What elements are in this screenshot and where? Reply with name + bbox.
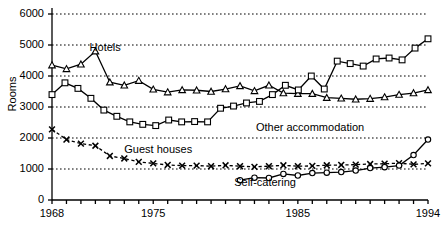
y-tick-label: 3000 xyxy=(4,100,44,112)
y-tick-label: 5000 xyxy=(4,38,44,50)
y-tick-label: 0 xyxy=(4,193,44,205)
data-point-x xyxy=(280,162,286,168)
data-point-square xyxy=(412,45,418,51)
data-point-square xyxy=(334,58,340,64)
x-tick-label: 1968 xyxy=(30,207,74,219)
data-point-x xyxy=(223,162,229,168)
data-point-circle xyxy=(367,165,372,170)
data-point-x xyxy=(425,161,431,167)
data-point-triangle xyxy=(266,82,273,88)
data-point-circle xyxy=(411,152,416,157)
data-point-square xyxy=(153,123,159,129)
data-point-square xyxy=(192,119,198,125)
data-point-square xyxy=(127,119,133,125)
series-guest-houses xyxy=(49,126,431,169)
data-point-square xyxy=(257,99,263,105)
series-label-other-accommodation: Other accommodation xyxy=(256,121,364,133)
data-point-square xyxy=(49,92,55,98)
data-point-square xyxy=(88,95,94,101)
data-point-x xyxy=(338,162,344,168)
data-point-square xyxy=(360,63,366,69)
data-point-square xyxy=(140,121,146,127)
data-point-square xyxy=(75,86,81,92)
data-point-square xyxy=(179,119,185,125)
data-point-square xyxy=(101,107,107,113)
data-point-square xyxy=(231,103,237,109)
data-point-x xyxy=(92,143,98,149)
data-point-square xyxy=(218,105,224,111)
data-point-square xyxy=(282,82,288,88)
data-point-triangle xyxy=(135,77,142,83)
data-point-circle xyxy=(339,169,344,174)
data-point-square xyxy=(373,56,379,62)
data-point-x xyxy=(136,159,142,165)
series-label-guest-houses: Guest houses xyxy=(124,143,192,155)
data-point-triangle xyxy=(107,79,114,85)
y-tick-label: 4000 xyxy=(4,69,44,81)
y-tick-label: 2000 xyxy=(4,131,44,143)
data-point-circle xyxy=(425,137,430,142)
data-point-square xyxy=(205,119,211,125)
x-tick-label: 1985 xyxy=(276,207,320,219)
data-point-x xyxy=(194,163,200,169)
data-point-circle xyxy=(310,170,315,175)
data-point-square xyxy=(347,61,353,67)
data-point-square xyxy=(270,92,276,98)
data-point-x xyxy=(309,163,315,169)
data-point-circle xyxy=(396,163,401,168)
data-point-square xyxy=(166,117,172,123)
series-label-hotels: Hotels xyxy=(90,41,121,53)
series-line xyxy=(52,51,428,99)
data-point-circle xyxy=(353,168,358,173)
x-tick-label: 1975 xyxy=(131,207,175,219)
data-point-square xyxy=(114,113,120,119)
data-point-x xyxy=(252,164,258,170)
data-point-triangle xyxy=(49,62,56,68)
data-point-square xyxy=(295,87,301,93)
data-point-triangle xyxy=(237,83,244,89)
y-tick-label: 6000 xyxy=(4,7,44,19)
y-tick-label: 1000 xyxy=(4,162,44,174)
data-point-x xyxy=(165,162,171,168)
data-point-square xyxy=(62,80,68,86)
data-point-circle xyxy=(382,164,387,169)
data-point-triangle xyxy=(425,87,432,93)
data-point-square xyxy=(308,73,314,79)
series-line xyxy=(240,140,428,181)
data-point-circle xyxy=(324,170,329,175)
data-point-triangle xyxy=(150,86,157,92)
data-point-x xyxy=(107,153,113,159)
data-point-square xyxy=(425,36,431,42)
x-tick-label: 1994 xyxy=(406,207,445,219)
series-line xyxy=(52,129,428,167)
data-point-square xyxy=(321,86,327,92)
data-point-square xyxy=(244,100,250,106)
series-label-self-catering: Self-catering xyxy=(234,176,296,188)
data-point-square xyxy=(386,55,392,61)
data-point-square xyxy=(399,57,405,63)
